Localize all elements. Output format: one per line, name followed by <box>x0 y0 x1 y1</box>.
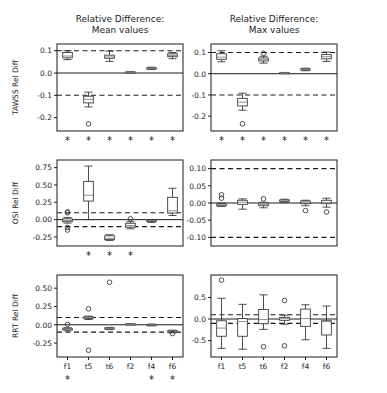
y-tick-label-0: 0.10 <box>189 164 206 173</box>
outlier-point-1 <box>282 343 287 348</box>
box-rrt-mean-f4 <box>147 324 157 326</box>
y-tick-label-0: 0.1 <box>194 48 206 57</box>
box-rect <box>217 54 227 60</box>
y-tick-label-2: -0.1 <box>191 91 206 100</box>
significance-asterisk-tawss-mean-f4: * <box>149 135 154 146</box>
box-osi-mean-f6 <box>168 188 178 215</box>
box-osi-mean-f2 <box>126 217 136 229</box>
y-tick-label-3: -0.05 <box>187 216 207 225</box>
y-tick-label-1: 0.05 <box>189 182 206 191</box>
box-osi-max-f1 <box>217 192 227 206</box>
x-tick-label-f2: f2 <box>281 362 289 371</box>
box-tawss-max-f1 <box>217 51 227 62</box>
outlier-point-0 <box>86 307 91 312</box>
y-tick-label-2: 0.00 <box>189 199 206 208</box>
significance-asterisk-osi-mean-t6: * <box>107 250 112 261</box>
outlier-point-0 <box>261 344 266 349</box>
y-tick-label-3: -0.25 <box>33 339 53 348</box>
box-tawss-mean-t6 <box>105 51 115 61</box>
y-tick-label-1: 0.25 <box>35 302 52 311</box>
significance-asterisk-tawss-max-f1: * <box>219 135 224 146</box>
panel-tawss-mean: Relative Difference:Mean valuesTAWSS Rel… <box>11 14 183 146</box>
outlier-point-0 <box>86 122 91 127</box>
significance-asterisk-rrt-mean-f1: * <box>65 374 70 385</box>
outlier-point-0 <box>324 210 329 215</box>
panel-rrt-max: 0.50.0-0.5f1t5t6f2f4f6 <box>191 275 337 371</box>
column-title-line2: Max values <box>249 25 300 35</box>
y-tick-label-0: 0.50 <box>35 284 52 293</box>
y-tick-label-3: -0.2 <box>37 113 52 122</box>
significance-asterisk-tawss-mean-f2: * <box>128 135 133 146</box>
y-tick-label-0: 0.1 <box>40 46 52 55</box>
x-tick-label-t5: t5 <box>85 362 93 371</box>
panel-frame <box>211 275 337 357</box>
box-rrt-mean-f1 <box>63 322 73 331</box>
y-tick-label-1: 0.50 <box>35 181 52 190</box>
box-osi-max-t5 <box>238 199 248 209</box>
x-tick-label-f2: f2 <box>127 362 135 371</box>
significance-asterisk-tawss-max-f4: * <box>303 135 308 146</box>
box-rrt-mean-t5 <box>84 307 94 353</box>
column-title-line2: Mean values <box>92 25 149 35</box>
x-tick-label-t6: t6 <box>260 362 268 371</box>
box-tawss-mean-f1 <box>63 51 73 60</box>
outlier-point-0 <box>303 208 308 213</box>
box-rrt-mean-f2 <box>126 324 136 325</box>
y-tick-label-2: -0.5 <box>191 336 206 345</box>
box-tawss-max-f6 <box>322 52 332 61</box>
y-axis-label: RRT Rel Diff <box>11 293 20 338</box>
y-tick-label-2: -0.1 <box>37 91 52 100</box>
box-rrt-max-t6 <box>259 295 269 349</box>
outlier-point-0 <box>107 280 112 285</box>
panel-frame <box>211 44 337 131</box>
box-osi-max-f6 <box>322 198 332 214</box>
box-tawss-mean-f6 <box>168 52 178 58</box>
panel-tawss-max: Relative Difference:Max values0.10.0-0.1… <box>191 14 337 146</box>
outlier-point-0 <box>261 197 266 202</box>
y-tick-label-2: 0.25 <box>35 198 52 207</box>
significance-asterisk-tawss-mean-f1: * <box>65 135 70 146</box>
box-rect <box>63 52 73 57</box>
box-tawss-mean-f2 <box>126 72 136 73</box>
significance-asterisk-tawss-max-t6: * <box>261 135 266 146</box>
significance-asterisk-osi-mean-t5: * <box>86 250 91 261</box>
box-rect <box>301 309 311 326</box>
y-axis-label: OSI Rel Diff <box>11 181 20 224</box>
boxplot-figure: Relative Difference:Mean valuesTAWSS Rel… <box>0 0 387 393</box>
x-tick-label-f1: f1 <box>64 362 72 371</box>
box-tawss-mean-t5 <box>84 92 94 126</box>
significance-asterisk-rrt-mean-f4: * <box>149 374 154 385</box>
y-tick-label-2: 0.00 <box>35 321 52 330</box>
panel-osi-max: 0.100.050.00-0.05-0.10 <box>187 160 337 246</box>
significance-asterisk-tawss-max-f6: * <box>324 135 329 146</box>
box-rrt-max-t5 <box>238 304 248 349</box>
box-osi-mean-f4 <box>147 220 157 223</box>
box-rect <box>259 310 269 324</box>
figure-canvas: Relative Difference:Mean valuesTAWSS Rel… <box>0 0 387 393</box>
box-rect <box>105 236 115 240</box>
box-tawss-max-t5 <box>238 93 248 126</box>
outlier-point-0 <box>282 298 287 303</box>
box-rrt-max-f4 <box>301 305 311 340</box>
x-tick-label-f4: f4 <box>148 362 156 371</box>
box-rrt-mean-t6 <box>105 280 115 330</box>
outlier-point-1 <box>219 196 224 201</box>
box-rect <box>322 321 332 335</box>
box-osi-max-f4 <box>301 200 311 213</box>
significance-asterisk-tawss-max-f2: * <box>282 135 287 146</box>
significance-asterisk-osi-mean-f2: * <box>128 250 133 261</box>
x-tick-label-t5: t5 <box>239 362 247 371</box>
x-tick-label-f6: f6 <box>323 362 331 371</box>
y-tick-label-1: 0.0 <box>194 315 206 324</box>
significance-asterisk-tawss-mean-t5: * <box>86 135 91 146</box>
box-rrt-max-f1 <box>217 278 227 348</box>
significance-asterisk-rrt-mean-f6: * <box>170 374 175 385</box>
panel-osi-mean: OSI Rel Diff0.750.500.250.00-0.25*** <box>11 160 183 261</box>
outlier-point-0 <box>219 278 224 283</box>
x-tick-label-f6: f6 <box>169 362 177 371</box>
panel-frame <box>57 275 183 357</box>
significance-asterisk-tawss-mean-t6: * <box>107 135 112 146</box>
y-tick-label-1: 0.0 <box>194 70 206 79</box>
x-tick-label-f1: f1 <box>218 362 226 371</box>
outlier-point-0 <box>128 217 133 222</box>
